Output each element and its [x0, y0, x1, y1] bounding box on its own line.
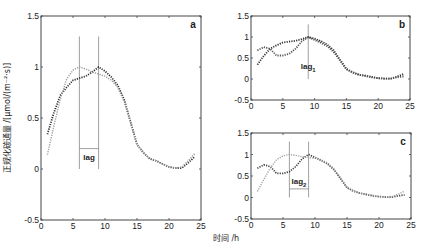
x-tick-label: 0: [249, 101, 254, 111]
plot-frame: [251, 133, 411, 219]
x-tick-label: 25: [405, 101, 415, 111]
series-1: [47, 67, 194, 168]
figure: 0510152025-0.500.511.5alag 0510152025-0.…: [0, 0, 424, 247]
series-2: [257, 155, 404, 198]
x-tick-label: 10: [310, 220, 320, 230]
y-tick-label: 1: [244, 150, 249, 160]
x-tick-label: 20: [373, 101, 383, 111]
series-path: [257, 37, 403, 79]
y-tick-label: -0.5: [234, 214, 249, 224]
x-tick-label: 0: [39, 221, 44, 231]
x-tick-label: 0: [249, 220, 254, 230]
x-tick-label: 5: [71, 221, 76, 231]
y-tick-label: 0: [244, 74, 249, 84]
x-tick-label: 15: [342, 101, 352, 111]
y-tick-label: 0.5: [237, 53, 249, 63]
x-tick-label: 10: [310, 101, 320, 111]
y-tick-label: -0.5: [24, 215, 39, 225]
x-tick-label: 25: [196, 221, 206, 231]
x-tick-label: 5: [281, 220, 286, 230]
y-tick-label: -0.5: [234, 95, 249, 105]
panel-label-a: a: [190, 19, 196, 30]
x-tick-label: 15: [342, 220, 352, 230]
y-tick-label: 0: [34, 164, 39, 174]
x-tick-label: 20: [164, 221, 174, 231]
y-tick-label: 0.5: [27, 113, 39, 123]
plot-frame: [251, 16, 410, 100]
x-tick-label: 20: [374, 220, 384, 230]
series-path: [257, 155, 404, 198]
y-axis-title: 正规化碳通量 /[μmol/(m⁻²·s)]: [2, 63, 12, 173]
panel-label-b: b: [399, 19, 405, 30]
x-tick-label: 15: [132, 221, 142, 231]
series-2: [257, 37, 403, 79]
series-2: [47, 67, 194, 168]
series-path: [257, 155, 404, 198]
series-1: [257, 37, 403, 79]
y-tick-label: 1.5: [237, 128, 249, 138]
y-tick-label: 1.5: [27, 11, 39, 21]
lag-label: lag: [83, 153, 95, 162]
y-tick-label: 1: [244, 32, 249, 42]
x-tick-label: 10: [100, 221, 110, 231]
plot-frame: [41, 16, 201, 220]
x-tick-label: 5: [280, 101, 285, 111]
x-tick-label: 25: [406, 220, 416, 230]
series-1: [257, 155, 404, 198]
series-path: [47, 67, 194, 168]
panel-a: 0510152025-0.500.511.5alag: [24, 11, 206, 231]
panel-label-c: c: [400, 136, 406, 147]
y-tick-label: 0: [244, 193, 249, 203]
y-tick-label: 0.5: [237, 171, 249, 181]
y-tick-label: 1: [34, 62, 39, 72]
series-path: [47, 67, 194, 168]
y-tick-label: 1.5: [237, 11, 249, 21]
series-path: [257, 37, 403, 79]
panel-b: 0510152025-0.500.511.5blag1: [234, 11, 415, 111]
panel-c: 0510152025-0.500.511.5clag2: [234, 128, 416, 230]
x-axis-title: 时间 /h: [213, 233, 239, 243]
lag-label: lag2: [292, 177, 308, 188]
